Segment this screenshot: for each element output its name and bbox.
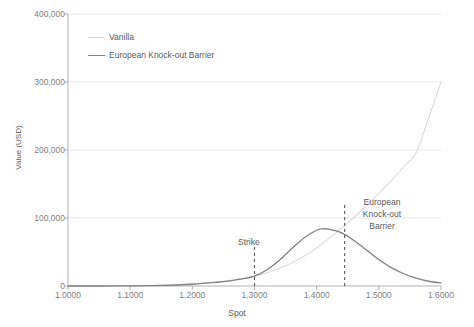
chart-container: Value (USD) Spot 0100,000200,000300,0004… bbox=[0, 0, 474, 327]
legend-item-vanilla: Vanilla bbox=[88, 28, 214, 46]
annotation-barrier-label: European Knock-out Barrier bbox=[353, 196, 411, 232]
annotation-marker-lines bbox=[255, 204, 345, 286]
legend-label-barrier: European Knock-out Barrier bbox=[109, 50, 214, 60]
annotation-barrier-line1: European bbox=[353, 196, 411, 208]
annotation-barrier-line2: Knock-out bbox=[353, 208, 411, 220]
legend-label-vanilla: Vanilla bbox=[109, 32, 134, 42]
legend: Vanilla European Knock-out Barrier bbox=[88, 28, 214, 64]
legend-swatch-barrier bbox=[88, 55, 105, 56]
plot-area bbox=[0, 0, 474, 327]
annotation-strike-label: Strike bbox=[238, 237, 260, 247]
legend-swatch-vanilla bbox=[88, 37, 105, 38]
legend-item-barrier: European Knock-out Barrier bbox=[88, 46, 214, 64]
annotation-barrier-line3: Barrier bbox=[353, 220, 411, 232]
